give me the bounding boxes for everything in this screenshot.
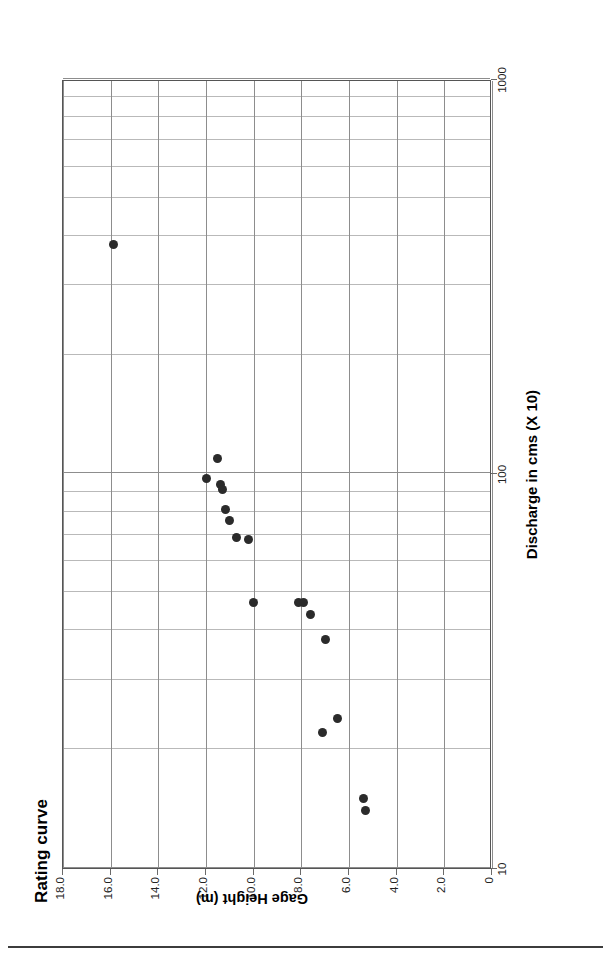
data-point: [361, 806, 370, 815]
y-axis-tick-mark: [62, 869, 63, 875]
gridline-gage-height: [63, 81, 64, 868]
gridline-discharge: [63, 116, 490, 117]
gridline-discharge: [63, 284, 490, 285]
gridline-gage-height: [396, 81, 397, 868]
figure-caption: ▲Figure 22.1 Rating curve for the Red Ri…: [309, 906, 609, 920]
x-axis-tick-label: 100: [496, 465, 508, 484]
x-axis-tick-mark: [491, 474, 497, 475]
gridline-discharge: [63, 534, 490, 535]
gridline-discharge: [63, 235, 490, 236]
y-axis-tick-mark: [443, 869, 444, 875]
data-point: [218, 485, 227, 494]
y-axis-tick-mark: [348, 869, 349, 875]
gridline-gage-height: [110, 81, 111, 868]
chart-title: Rating curve: [32, 799, 52, 903]
gridline-gage-height: [444, 81, 445, 868]
data-point: [244, 535, 253, 544]
gridline-discharge: [63, 679, 490, 680]
data-point: [249, 598, 258, 607]
x-axis-tick-mark: [491, 79, 497, 80]
gridline-gage-height: [492, 81, 493, 868]
data-point: [108, 240, 117, 249]
gridline-discharge: [63, 560, 490, 561]
gridline-discharge: [63, 96, 490, 97]
book-page: Rating curve 10100100002.04.06.08.010.01…: [0, 0, 611, 954]
y-axis-tick-mark: [395, 869, 396, 875]
gridline-discharge: [63, 591, 490, 592]
data-point: [220, 505, 229, 514]
data-point: [306, 610, 315, 619]
y-axis-tick-mark: [252, 869, 253, 875]
gridline-discharge: [63, 78, 490, 79]
gridline-gage-height: [158, 81, 159, 868]
y-axis-tick-label: 18.0: [54, 877, 66, 915]
y-axis-tick-mark: [157, 869, 158, 875]
gridline-discharge: [63, 166, 490, 167]
gridline-discharge: [63, 748, 490, 749]
page-divider-rule: [8, 946, 603, 948]
data-point: [201, 474, 210, 483]
data-point: [318, 728, 327, 737]
figure-caption-text: ▲Figure 22.1 Rating curve for the Red Ri…: [597, 920, 609, 954]
gridline-discharge: [63, 139, 490, 140]
data-point: [320, 635, 329, 644]
data-point: [232, 533, 241, 542]
data-point: [299, 598, 308, 607]
plot-area: [62, 80, 491, 869]
x-axis-tick-label: 1000: [496, 67, 508, 93]
gridline-discharge: [63, 473, 490, 474]
y-axis-tick-mark: [109, 869, 110, 875]
data-point: [225, 516, 234, 525]
gridline-discharge: [63, 354, 490, 355]
gridline-discharge: [63, 491, 490, 492]
figure-rotated-wrapper: Rating curve 10100100002.04.06.08.010.01…: [26, 27, 586, 927]
gridline-gage-height: [253, 81, 254, 868]
gridline-gage-height: [301, 81, 302, 868]
gridline-discharge: [63, 630, 490, 631]
gridline-discharge: [63, 867, 490, 868]
gridline-gage-height: [349, 81, 350, 868]
gridline-discharge: [63, 197, 490, 198]
data-point: [332, 714, 341, 723]
data-point: [213, 454, 222, 463]
x-axis-title: Discharge in cms (X 10): [523, 80, 540, 869]
y-axis-title: Gage Height (m): [132, 891, 372, 907]
data-point: [358, 794, 367, 803]
x-axis-tick-label: 10: [496, 863, 508, 876]
y-axis-tick-mark: [205, 869, 206, 875]
y-axis-tick-label: 16.0: [101, 877, 113, 915]
y-axis-tick-mark: [491, 869, 492, 875]
y-axis-tick-mark: [300, 869, 301, 875]
figure-inner: Rating curve 10100100002.04.06.08.010.01…: [26, 27, 586, 927]
gridline-discharge: [63, 511, 490, 512]
